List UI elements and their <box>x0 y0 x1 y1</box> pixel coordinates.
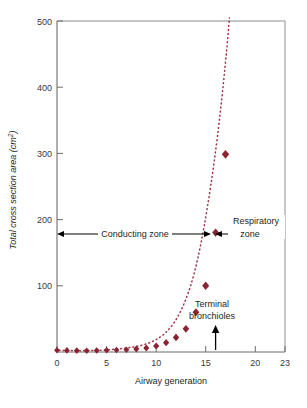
svg-text:Total cross section area (cm2): Total cross section area (cm2) <box>7 131 19 250</box>
x-tick-label-10: 10 <box>151 358 161 368</box>
x-tick-label-15: 15 <box>201 358 211 368</box>
y-axis-title: Total cross section area (cm2) <box>7 131 19 250</box>
y-axis-title-tail: ) <box>8 131 18 135</box>
y-tick-label-100: 100 <box>37 281 52 291</box>
chart-svg: 500 400 300 200 100 0 5 10 15 20 23 Airw… <box>0 0 307 408</box>
y-tick-label-500: 500 <box>37 17 52 27</box>
x-tick-label-23: 23 <box>280 358 290 368</box>
x-tick-label-0: 0 <box>54 358 59 368</box>
respiratory-zone-label-line2: zone <box>240 229 260 239</box>
x-tick-label-5: 5 <box>104 358 109 368</box>
x-axis-title: Airway generation <box>135 376 207 386</box>
chart-background <box>0 0 307 408</box>
y-axis-title-main: Total cross section area (cm <box>8 137 18 250</box>
y-tick-label-300: 300 <box>37 149 52 159</box>
terminal-bronchioles-label-line1: Terminal <box>195 299 229 309</box>
x-tick-label-20: 20 <box>250 358 260 368</box>
chart-figure: 500 400 300 200 100 0 5 10 15 20 23 Airw… <box>0 0 307 408</box>
respiratory-zone-label-line1: Respiratory <box>233 216 280 226</box>
terminal-bronchioles-label-line2: bronchioles <box>189 311 236 321</box>
conducting-zone-label: Conducting zone <box>101 229 169 239</box>
y-tick-label-200: 200 <box>37 215 52 225</box>
y-tick-label-400: 400 <box>37 83 52 93</box>
